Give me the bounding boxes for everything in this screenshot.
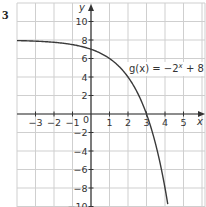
y-tick-label: 6 bbox=[81, 53, 87, 64]
y-tick-label: −4 bbox=[73, 146, 87, 157]
x-axis-label: x bbox=[196, 116, 203, 127]
y-axis-arrow-icon bbox=[88, 4, 94, 11]
y-tick-label: −10 bbox=[67, 201, 87, 207]
y-tick-label: 8 bbox=[81, 35, 87, 46]
function-label: g(x) = −2x + 8 bbox=[129, 62, 204, 74]
y-tick-label: −2 bbox=[73, 127, 87, 138]
x-tick-label: −2 bbox=[47, 117, 61, 128]
axes bbox=[17, 4, 205, 207]
x-tick-label: 1 bbox=[106, 117, 112, 128]
function-graph: −3−2−112345108642−2−4−6−8−100xy g(x) = −… bbox=[0, 0, 206, 207]
tick-labels: −3−2−112345108642−2−4−6−8−100xy bbox=[28, 2, 203, 207]
y-axis-label: y bbox=[78, 2, 86, 13]
y-tick-label: 10 bbox=[75, 16, 87, 27]
y-tick-label: −6 bbox=[73, 164, 87, 175]
y-tick-label: 2 bbox=[81, 90, 87, 101]
x-tick-label: 5 bbox=[180, 117, 186, 128]
y-tick-label: −8 bbox=[73, 183, 87, 194]
x-tick-label: 2 bbox=[125, 117, 131, 128]
y-tick-label: 4 bbox=[81, 72, 87, 83]
origin-label: 0 bbox=[83, 114, 89, 125]
x-tick-label: 4 bbox=[162, 117, 168, 128]
grid-lines bbox=[17, 3, 205, 207]
x-tick-label: −3 bbox=[28, 117, 42, 128]
